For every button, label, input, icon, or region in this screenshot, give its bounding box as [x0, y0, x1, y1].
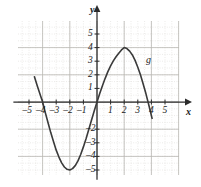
x-axis-label: x	[186, 107, 191, 117]
y-tick-label: 3	[88, 56, 93, 66]
y-tick-label: –4	[86, 151, 96, 161]
x-tick-label: –2	[63, 106, 73, 116]
y-tick-label: 1	[88, 83, 93, 93]
y-tick-label: 4	[88, 43, 93, 53]
x-tick-label: 2	[122, 106, 127, 116]
x-tick-label: –5	[23, 106, 33, 116]
y-tick-label: –3	[86, 138, 96, 148]
x-tick-label: –3	[50, 106, 60, 116]
coordinate-plane-svg	[0, 0, 201, 187]
y-tick-label: –2	[86, 124, 96, 134]
y-axis-arrowhead	[94, 5, 101, 12]
axis-arrowheads	[94, 5, 192, 105]
x-tick-label: 5	[163, 106, 168, 116]
y-tick-label: 5	[88, 29, 93, 39]
y-axis-label: y	[90, 5, 94, 15]
x-tick-label: 1	[108, 106, 113, 116]
y-tick-label: 2	[88, 70, 93, 80]
curve-label-g: g	[146, 55, 151, 65]
graph-figure: y x g –5–4–3–2–11234554321–2–3–4–5	[0, 0, 201, 187]
x-axis-arrowhead	[185, 99, 192, 106]
x-tick-label: –1	[77, 106, 87, 116]
x-tick-label: –4	[36, 106, 46, 116]
x-tick-label: 3	[135, 106, 140, 116]
y-tick-label: –5	[86, 165, 96, 175]
x-tick-label: 4	[149, 106, 154, 116]
